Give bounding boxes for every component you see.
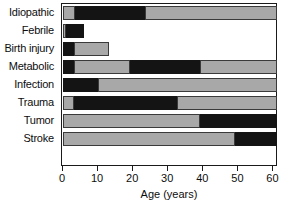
bar-segment-gray [63, 96, 74, 110]
x-axis-tick [237, 166, 238, 171]
bar-segment-gray [177, 96, 277, 110]
category-axis-labels: IdiopathicFebrileBirth injuryMetabolicIn… [0, 3, 57, 166]
x-axis-tick [132, 166, 133, 171]
x-axis-tick-label: 50 [222, 172, 252, 184]
bar-segment-black [200, 114, 277, 128]
bar-segment-black [75, 6, 145, 20]
category-label: Infection [14, 79, 54, 90]
bar-segment-gray [63, 6, 75, 20]
x-axis-tick [202, 166, 203, 171]
bar-segment-black [63, 60, 74, 74]
bar-segment-gray [63, 132, 235, 146]
bar-segment-black [66, 24, 84, 38]
category-label: Tumor [24, 115, 54, 126]
category-label: Metabolic [9, 61, 54, 72]
category-label: Trauma [18, 97, 54, 108]
bar-segment-gray [74, 60, 130, 74]
bar-segment-gray [200, 60, 277, 74]
bar-segment-black [235, 132, 277, 146]
category-label: Stroke [23, 133, 54, 144]
x-axis-tick-label: 10 [82, 172, 112, 184]
x-axis-tick-label: 0 [47, 172, 77, 184]
category-label: Idiopathic [9, 7, 54, 18]
x-axis-tick [272, 166, 273, 171]
category-label: Febrile [22, 25, 54, 36]
x-axis-tick-label: 20 [117, 172, 147, 184]
x-axis-tick [167, 166, 168, 171]
x-axis-title: Age (years) [61, 188, 277, 200]
plot-area [61, 3, 277, 166]
bar-segment-gray [98, 78, 277, 92]
x-axis-tick-label: 60 [257, 172, 283, 184]
bar-segment-black [63, 78, 98, 92]
x-axis-tick [62, 166, 63, 171]
category-label: Birth injury [4, 43, 54, 54]
x-axis-tick [97, 166, 98, 171]
x-axis-tick-label: 40 [187, 172, 217, 184]
bar-segment-gray [63, 114, 200, 128]
bar-segment-black [63, 42, 74, 56]
bar-segment-black [74, 96, 177, 110]
x-axis-tick-label: 30 [152, 172, 182, 184]
bar-segment-gray [74, 42, 109, 56]
age-by-etiology-bar-chart: IdiopathicFebrileBirth injuryMetabolicIn… [0, 0, 283, 211]
bar-segment-black [130, 60, 200, 74]
bar-segment-gray [145, 6, 277, 20]
